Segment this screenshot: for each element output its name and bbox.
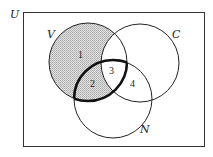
region-3-label: 3 (109, 65, 114, 76)
set-n-label: N (139, 123, 150, 136)
region-1-label: 1 (78, 49, 83, 60)
set-c-label: C (172, 28, 181, 41)
venn-diagram: U V C N 1 2 3 4 (0, 0, 213, 157)
region-4-label: 4 (130, 78, 135, 89)
region-2-label: 2 (90, 78, 95, 89)
universe-label: U (10, 8, 20, 21)
set-v-label: V (47, 28, 56, 41)
